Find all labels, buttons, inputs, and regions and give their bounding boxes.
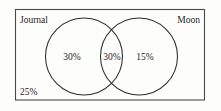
venn-diagram-figure: Journal Moon 30% 30% 15% 25% xyxy=(0,0,221,111)
set-label-moon: Moon xyxy=(177,15,200,25)
set-label-journal: Journal xyxy=(20,15,48,25)
region-value-moon-only: 15% xyxy=(136,52,154,62)
region-value-intersection: 30% xyxy=(103,52,121,62)
region-value-outside-both: 25% xyxy=(20,87,38,97)
region-value-journal-only: 30% xyxy=(63,52,81,62)
venn-diagram-canvas: Journal Moon 30% 30% 15% 25% xyxy=(0,0,221,111)
